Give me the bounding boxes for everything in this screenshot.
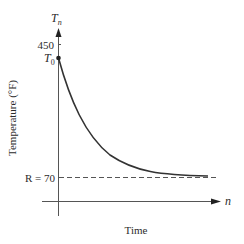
y-axis-symbol: Tn [51,11,62,27]
x-axis-symbol: n [225,194,231,208]
x-axis-label: Time [125,224,148,236]
y-axis-arrow-icon [56,28,62,37]
asymptote-label: R = 70 [25,172,56,184]
y-tick-label-450: 450 [38,39,55,51]
x-axis-arrow-icon [211,199,221,205]
chart: Tn 450 T0 R = 70 n Time Temperature (°F) [0,0,244,244]
t0-point [56,56,61,61]
y-axis-label: Temperature (°F) [6,80,19,156]
t0-label: T0 [44,51,55,67]
decay-curve [59,58,209,176]
